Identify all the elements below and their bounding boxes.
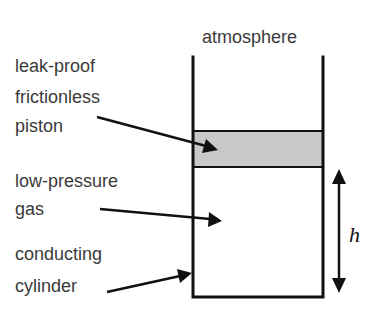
cylinder-label-line-2: cylinder [15,276,77,296]
gas-label-group: low-pressure gas [15,171,118,219]
piston-label-line-1: leak-proof [15,56,96,76]
piston-label-group: leak-proof frictionless piston [15,56,100,136]
cylinder-label-line-1: conducting [15,244,102,264]
piston-label-line-3: piston [15,116,63,136]
height-variable-label: h [349,222,360,247]
piston-cylinder-diagram: atmosphere leak-proof frictionless pisto… [0,0,375,319]
cylinder-label-group: conducting cylinder [15,244,102,296]
atmosphere-label: atmosphere [202,27,297,47]
piston-label-line-2: frictionless [15,87,100,107]
height-double-arrow-icon [332,169,346,293]
gas-label-line-2: gas [15,199,44,219]
gas-pointer-arrow-icon [100,209,222,227]
cylinder-pointer-arrow-icon [107,269,192,292]
conducting-cylinder [193,57,323,297]
gas-label-line-1: low-pressure [15,171,118,191]
